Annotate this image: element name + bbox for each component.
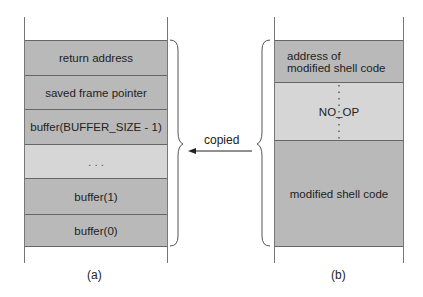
- cell-ellipsis: . . .: [25, 144, 167, 178]
- stack-b: address of modified shell code NO_OP mod…: [274, 17, 404, 263]
- caption-a: (a): [87, 268, 102, 282]
- cell-label: modified shell code: [290, 188, 388, 200]
- cell-buffer-size-minus-1: buffer(BUFFER_SIZE - 1): [25, 109, 167, 144]
- cell-label: buffer(1): [74, 191, 117, 203]
- cell-address-of-shell-code: address of modified shell code: [275, 40, 403, 82]
- stack-a: return address saved frame pointer buffe…: [24, 17, 168, 263]
- arrow-left-icon: [188, 146, 254, 156]
- cell-label: buffer(BUFFER_SIZE - 1): [30, 121, 161, 133]
- brace-left-stack-icon: [168, 38, 184, 250]
- buffer-overflow-diagram: return address saved frame pointer buffe…: [0, 0, 423, 297]
- cell-buffer-1: buffer(1): [25, 178, 167, 214]
- no-op-dotted-line: [337, 85, 341, 139]
- cell-saved-frame-pointer: saved frame pointer: [25, 75, 167, 109]
- cell-label: return address: [59, 52, 133, 64]
- caption-b: (b): [331, 268, 346, 282]
- cell-label: buffer(0): [74, 225, 117, 237]
- cell-label: . . .: [88, 156, 104, 168]
- arrow-label: copied: [204, 133, 239, 147]
- cell-label: address of modified shell code: [287, 50, 387, 74]
- cell-modified-shell-code: modified shell code: [275, 140, 403, 247]
- cell-label: saved frame pointer: [45, 87, 147, 99]
- cell-return-address: return address: [25, 40, 167, 75]
- brace-right-stack-icon: [256, 38, 272, 250]
- cell-buffer-0: buffer(0): [25, 214, 167, 247]
